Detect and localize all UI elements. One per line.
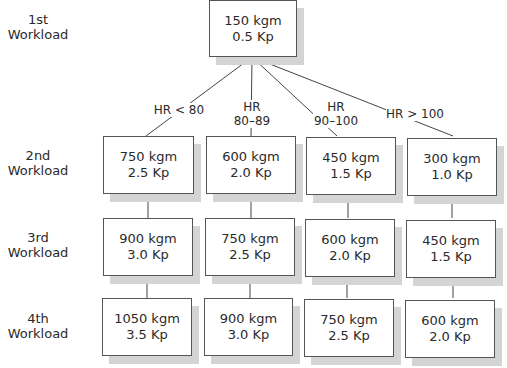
work-value: 900 kgm <box>119 231 176 247</box>
work-value: 750 kgm <box>320 312 377 328</box>
workload-box-3rd-col3: 600 kgm 2.0 Kp <box>305 219 395 277</box>
row-label-4th: 4th Workload <box>0 311 76 341</box>
workload-box-3rd-col4: 450 kgm 1.5 Kp <box>406 220 496 278</box>
workload-box-4th-col1: 1050 kgm 3.5 Kp <box>102 298 192 356</box>
root-workload-box: 150 kgm 0.5 Kp <box>209 0 297 57</box>
workload-box-3rd-col1: 900 kgm 3.0 Kp <box>103 218 193 276</box>
workload-box-4th-col3: 750 kgm 2.5 Kp <box>304 299 394 357</box>
load-value: 0.5 Kp <box>232 29 274 45</box>
work-value: 600 kgm <box>222 149 279 165</box>
load-value: 2.5 Kp <box>229 247 271 263</box>
workload-box-4th-col4: 600 kgm 2.0 Kp <box>405 300 495 358</box>
workload-box-3rd-col2: 750 kgm 2.5 Kp <box>205 218 295 276</box>
work-value: 1050 kgm <box>114 311 180 327</box>
load-value: 2.0 Kp <box>429 329 471 345</box>
load-value: 3.0 Kp <box>228 327 270 343</box>
load-value: 1.5 Kp <box>330 166 372 182</box>
branch-label-hr-90-100: HR 90–100 <box>313 100 359 128</box>
workload-box-4th-col2: 900 kgm 3.0 Kp <box>204 298 293 356</box>
work-value: 150 kgm <box>224 13 281 29</box>
work-value: 450 kgm <box>322 150 379 166</box>
load-value: 1.0 Kp <box>431 167 473 183</box>
load-value: 3.5 Kp <box>126 327 168 343</box>
branch-label-hr-80-89: HR 80–89 <box>232 100 272 128</box>
workload-box-2nd-col3: 450 kgm 1.5 Kp <box>306 137 396 195</box>
load-value: 2.5 Kp <box>328 328 370 344</box>
work-value: 450 kgm <box>422 233 479 249</box>
row-label-3rd: 3rd Workload <box>0 230 76 260</box>
work-value: 300 kgm <box>423 151 480 167</box>
work-value: 600 kgm <box>421 313 478 329</box>
load-value: 1.5 Kp <box>430 249 472 265</box>
work-value: 750 kgm <box>221 231 278 247</box>
row-label-2nd: 2nd Workload <box>0 148 76 178</box>
load-value: 2.0 Kp <box>230 165 272 181</box>
branch-label-hr-gt-100: HR > 100 <box>386 107 444 121</box>
work-value: 600 kgm <box>321 232 378 248</box>
work-value: 900 kgm <box>220 311 277 327</box>
workload-box-2nd-col4: 300 kgm 1.0 Kp <box>407 138 497 196</box>
work-value: 750 kgm <box>120 149 177 165</box>
load-value: 2.5 Kp <box>128 165 170 181</box>
workload-box-2nd-col2: 600 kgm 2.0 Kp <box>206 136 296 194</box>
load-value: 3.0 Kp <box>127 247 169 263</box>
workload-box-2nd-col1: 750 kgm 2.5 Kp <box>103 136 194 194</box>
branch-label-hr-lt-80: HR < 80 <box>150 103 208 117</box>
row-label-1st: 1st Workload <box>0 12 76 42</box>
load-value: 2.0 Kp <box>329 248 371 264</box>
